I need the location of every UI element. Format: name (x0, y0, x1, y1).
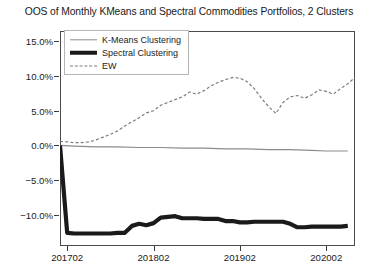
legend-label-kmeans: K-Means Clustering (102, 35, 181, 45)
x-axis-tick-labels: 201702201802201902202002 (0, 246, 378, 274)
chart-figure: OOS of Monthly KMeans and Spectral Commo… (0, 0, 378, 277)
y-tick-mark (54, 41, 59, 42)
x-tick-mark (326, 246, 327, 251)
x-tick-label: 201802 (138, 252, 170, 263)
chart-title: OOS of Monthly KMeans and Spectral Commo… (0, 6, 378, 17)
x-tick-mark (240, 246, 241, 251)
series-line-kmeans (60, 145, 348, 151)
x-tick-label: 201702 (51, 252, 83, 263)
y-tick-mark (54, 180, 59, 181)
legend-item-spectral: Spectral Clustering (70, 46, 178, 59)
legend-label-spectral: Spectral Clustering (102, 48, 178, 58)
x-tick-mark (67, 246, 68, 251)
y-tick-mark (54, 76, 59, 77)
y-tick-label: 15.0% (26, 36, 53, 47)
solid-thin-line-swatch-icon (70, 33, 97, 46)
y-tick-label: 5.0% (31, 105, 53, 116)
x-tick-label: 201902 (224, 252, 256, 263)
solid-thick-line-swatch-icon (70, 46, 97, 59)
legend-item-ew: EW (70, 59, 117, 72)
y-tick-label: −5.0% (26, 175, 53, 186)
y-tick-mark (54, 215, 59, 216)
y-tick-mark (54, 111, 59, 112)
chart-legend: K-Means Clustering Spectral Clustering E… (64, 30, 189, 75)
x-tick-mark (154, 246, 155, 251)
y-tick-label: 0.0% (31, 140, 53, 151)
x-tick-label: 202002 (310, 252, 342, 263)
y-axis-tick-labels: 15.0%10.0%5.0%0.0%−5.0%−10.0% (0, 31, 53, 246)
y-tick-label: 10.0% (26, 71, 53, 82)
dashed-line-swatch-icon (70, 59, 97, 72)
legend-label-ew: EW (102, 61, 117, 71)
legend-item-kmeans: K-Means Clustering (70, 33, 181, 46)
y-tick-mark (54, 145, 59, 146)
series-line-spectral (60, 145, 348, 233)
y-tick-label: −10.0% (20, 209, 53, 220)
